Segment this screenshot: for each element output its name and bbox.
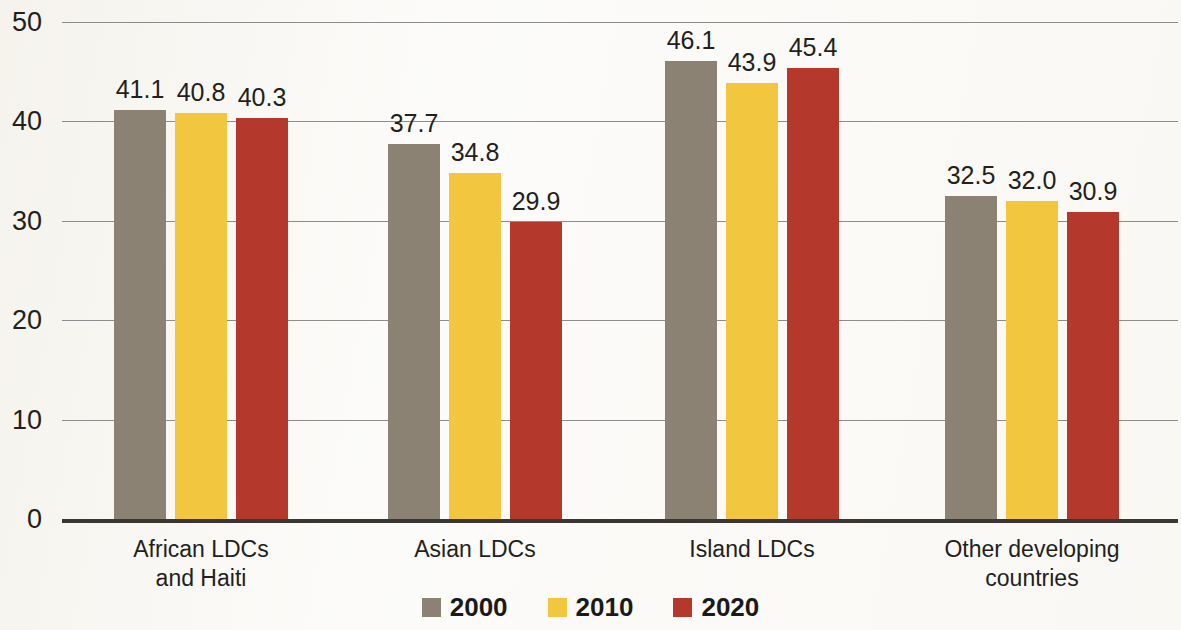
bar-2000-group-3 — [665, 61, 717, 519]
category-label-4-line-2: countries — [882, 564, 1181, 593]
category-label-4-line-1: Other developing — [882, 535, 1181, 564]
y-tick-label-50: 50 — [12, 7, 42, 38]
plot-area: 01020304050 41.140.840.337.734.829.946.1… — [62, 22, 1178, 519]
gridline-40 — [62, 121, 1178, 122]
category-label-4: Other developingcountries — [882, 535, 1181, 593]
x-axis-baseline — [62, 519, 1178, 523]
category-label-3-line-1: Island LDCs — [602, 535, 902, 564]
category-label-2: Asian LDCs — [325, 535, 625, 564]
bar-2010-group-4 — [1006, 201, 1058, 519]
y-tick-label-30: 30 — [12, 205, 42, 236]
category-label-3: Island LDCs — [602, 535, 902, 564]
legend-item-2020[interactable]: 2020 — [673, 592, 759, 623]
bar-2000-group-2 — [388, 144, 440, 519]
legend-item-2000[interactable]: 2000 — [422, 592, 508, 623]
gridline-50 — [62, 22, 1178, 23]
legend-swatch-icon-2000 — [422, 598, 441, 617]
y-tick-label-20: 20 — [12, 305, 42, 336]
y-tick-label-40: 40 — [12, 106, 42, 137]
bar-2020-group-1 — [236, 118, 288, 519]
legend-swatch-icon-2020 — [673, 598, 692, 617]
category-label-1: African LDCsand Haiti — [51, 535, 351, 593]
bar-2010-group-1 — [175, 113, 227, 519]
bar-2010-group-3 — [726, 83, 778, 519]
bar-2000-group-1 — [114, 110, 166, 519]
bar-value-label-2020-group-1: 40.3 — [217, 83, 307, 112]
category-label-2-line-1: Asian LDCs — [325, 535, 625, 564]
y-tick-label-10: 10 — [12, 404, 42, 435]
legend-label-2020: 2020 — [701, 592, 759, 623]
bar-value-label-2020-group-4: 30.9 — [1048, 177, 1138, 206]
bar-value-label-2000-group-2: 37.7 — [369, 109, 459, 138]
chart-legend: 200020102020 — [0, 592, 1181, 623]
bar-value-label-2010-group-2: 34.8 — [430, 138, 520, 167]
category-label-1-line-2: and Haiti — [51, 564, 351, 593]
legend-label-2000: 2000 — [450, 592, 508, 623]
legend-item-2010[interactable]: 2010 — [548, 592, 634, 623]
chart-page: 01020304050 41.140.840.337.734.829.946.1… — [0, 0, 1181, 630]
bar-value-label-2020-group-2: 29.9 — [491, 187, 581, 216]
bar-2020-group-3 — [787, 68, 839, 519]
bar-2000-group-4 — [945, 196, 997, 519]
bar-value-label-2020-group-3: 45.4 — [768, 33, 858, 62]
y-tick-label-0: 0 — [27, 504, 42, 535]
bar-2020-group-4 — [1067, 212, 1119, 519]
legend-label-2010: 2010 — [576, 592, 634, 623]
legend-swatch-icon-2010 — [548, 598, 567, 617]
bar-2020-group-2 — [510, 222, 562, 519]
bar-2010-group-2 — [449, 173, 501, 519]
category-label-1-line-1: African LDCs — [51, 535, 351, 564]
